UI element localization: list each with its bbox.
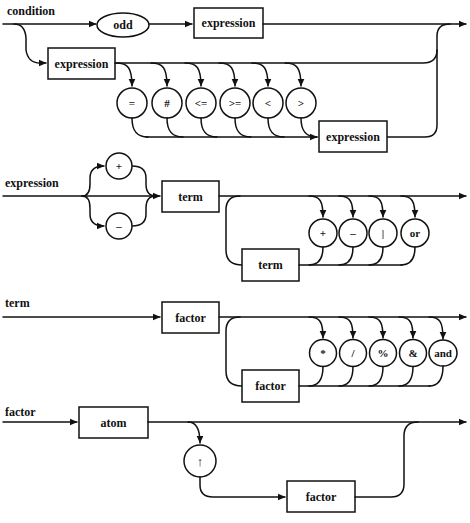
operator-ge: >= bbox=[220, 88, 250, 118]
expression-right-label: expression bbox=[326, 130, 380, 144]
merge-curve bbox=[429, 366, 443, 386]
condition-middle-line bbox=[115, 50, 437, 63]
branch-arrow bbox=[339, 196, 353, 217]
term-main-label: term bbox=[178, 190, 203, 204]
factor-merge-line bbox=[355, 422, 418, 497]
condition-right-return bbox=[387, 24, 450, 137]
merge-curve bbox=[201, 118, 217, 137]
minus-sign-label: – bbox=[115, 220, 122, 232]
expression-loop-return bbox=[226, 196, 242, 265]
branch-arrow bbox=[252, 63, 268, 86]
merge-curve bbox=[369, 247, 383, 265]
operator-or-label: or bbox=[410, 227, 421, 239]
operator-plus-label: + bbox=[320, 227, 326, 239]
merge-curve bbox=[167, 118, 183, 137]
expression-left-label: expression bbox=[55, 57, 109, 71]
merge-curve bbox=[339, 367, 353, 387]
operator-lt: < bbox=[253, 88, 283, 118]
factor-loop-label: factor bbox=[255, 379, 286, 393]
branch-arrow bbox=[399, 317, 413, 338]
term-loop-return bbox=[226, 317, 242, 386]
operator-label: >= bbox=[229, 97, 242, 109]
merge-curve bbox=[268, 118, 284, 137]
power-branch-arrow bbox=[188, 422, 200, 443]
merge-curve bbox=[132, 118, 148, 137]
branch-arrow bbox=[369, 317, 383, 338]
operator-ampersand-label: & bbox=[408, 347, 417, 359]
expression-rule-label: expression bbox=[5, 176, 59, 190]
term-rule-label: term bbox=[5, 296, 30, 310]
expression-rule: expression + – term term + – | or bbox=[3, 153, 466, 281]
expression-after-odd-label: expression bbox=[202, 16, 256, 30]
power-to-factor-line bbox=[200, 477, 285, 497]
atom-label: atom bbox=[101, 416, 127, 430]
merge-curve bbox=[301, 118, 317, 137]
condition-lower-branch bbox=[14, 24, 46, 63]
operator-minus-label: – bbox=[349, 227, 356, 239]
merge-curve bbox=[235, 118, 251, 137]
operator-gt: > bbox=[286, 88, 316, 118]
operator-bar-label: | bbox=[382, 227, 384, 239]
branch-arrow bbox=[309, 196, 323, 217]
operator-hash: # bbox=[152, 88, 182, 118]
plus-sign-label: + bbox=[116, 160, 122, 172]
branch-arrow bbox=[285, 63, 301, 86]
plus-sign-branch bbox=[82, 166, 104, 196]
term-loop-label: term bbox=[258, 258, 283, 272]
odd-keyword-label: odd bbox=[113, 18, 133, 32]
factor-main-label: factor bbox=[175, 311, 206, 325]
operator-multiply-label: * bbox=[320, 347, 326, 359]
condition-rule-label: condition bbox=[7, 4, 55, 18]
merge-curve bbox=[339, 247, 353, 265]
branch-arrow bbox=[401, 196, 415, 217]
operator-modulo-label: % bbox=[378, 347, 389, 359]
factor-recursive-label: factor bbox=[306, 490, 337, 504]
merge-curve bbox=[369, 367, 383, 387]
operator-label: < bbox=[265, 97, 271, 109]
branch-arrow bbox=[369, 196, 383, 217]
branch-arrow bbox=[185, 63, 201, 86]
condition-rule: condition odd expression expression = # bbox=[3, 4, 466, 152]
branch-arrow bbox=[339, 317, 353, 338]
merge-curve bbox=[401, 247, 415, 265]
minus-sign-merge bbox=[132, 196, 156, 226]
operator-le: <= bbox=[186, 88, 216, 118]
merge-curve bbox=[399, 367, 413, 387]
factor-rule-label: factor bbox=[5, 405, 36, 419]
operator-label: <= bbox=[195, 97, 208, 109]
term-rule: term factor factor * / % & and bbox=[3, 296, 466, 402]
operator-and-label: and bbox=[434, 347, 452, 359]
operator-label: = bbox=[129, 97, 135, 109]
branch-arrow bbox=[309, 317, 323, 338]
branch-arrow bbox=[116, 63, 132, 86]
up-arrow-icon: ↑ bbox=[197, 454, 204, 469]
operator-label: # bbox=[164, 97, 170, 109]
operator-label: > bbox=[298, 97, 304, 109]
minus-sign-branch bbox=[82, 196, 104, 226]
merge-curve bbox=[309, 247, 323, 265]
branch-arrow bbox=[429, 317, 443, 339]
branch-arrow bbox=[151, 63, 167, 86]
syntax-diagram: condition odd expression expression = # bbox=[0, 0, 470, 523]
factor-rule: factor atom ↑ factor bbox=[3, 405, 466, 512]
branch-arrow bbox=[219, 63, 235, 86]
plus-sign-merge bbox=[132, 166, 156, 196]
operator-eq: = bbox=[117, 88, 147, 118]
merge-curve bbox=[309, 367, 323, 387]
